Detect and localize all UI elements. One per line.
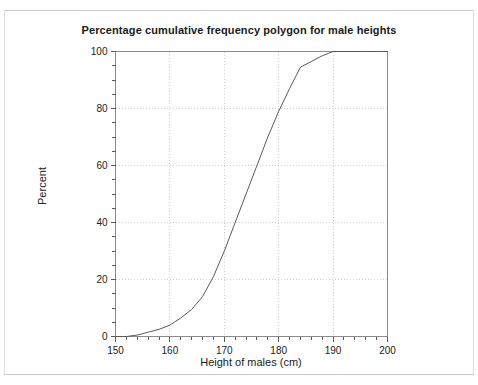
x-axis-label: Height of males (cm)	[115, 356, 387, 368]
y-tick-label: 20	[78, 274, 108, 285]
y-tick-label: 100	[78, 46, 108, 57]
y-tick-label: 80	[78, 103, 108, 114]
x-tick-label: 180	[259, 345, 299, 356]
y-tick-label: 0	[78, 331, 108, 342]
x-tick-label: 170	[204, 345, 244, 356]
chart-page: Percentage cumulative frequency polygon …	[0, 0, 478, 385]
cumulative-frequency-chart	[0, 0, 478, 385]
y-tick-label: 60	[78, 160, 108, 171]
x-tick-label: 150	[96, 345, 136, 356]
y-tick-label: 40	[78, 217, 108, 228]
x-tick-label: 160	[150, 345, 190, 356]
x-tick-label: 200	[368, 345, 408, 356]
y-axis-label: Percent	[36, 126, 48, 246]
x-tick-label: 190	[313, 345, 353, 356]
plot-area: 150160170180190200020406080100	[0, 0, 478, 385]
